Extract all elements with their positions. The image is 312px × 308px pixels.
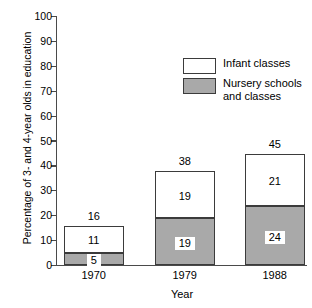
bar-group: 2421451988	[245, 0, 306, 300]
bar-segment-infant[interactable]: 11	[64, 226, 125, 253]
y-axis-tick-label: 20	[12, 210, 52, 220]
bar-group: 511161970	[64, 0, 125, 300]
legend-swatch-infant-classes	[183, 58, 216, 74]
x-axis-tick-label: 1970	[52, 269, 137, 281]
y-axis-tick-label: 100	[12, 11, 52, 21]
bar-segment-value-label: 21	[246, 175, 305, 187]
bar-segment-infant[interactable]: 19	[155, 171, 216, 218]
bar-segment-infant[interactable]: 21	[245, 154, 306, 206]
y-axis-line	[56, 16, 57, 266]
legend-label-infant-classes: Infant classes	[223, 57, 290, 70]
y-axis-tick-label: 90	[12, 36, 52, 46]
y-axis-tick-label: 70	[12, 86, 52, 96]
bar-segment-value-label: 11	[65, 234, 124, 246]
x-axis-title: Year	[57, 288, 307, 300]
x-axis-tick-label: 1979	[143, 269, 228, 281]
bar-total-label: 45	[235, 138, 312, 150]
bar-segment-value-label: 19	[156, 237, 215, 250]
y-axis-tick-label: 50	[12, 136, 52, 146]
bar-total-label: 16	[54, 210, 135, 222]
legend-swatch-nursery-schools	[183, 78, 216, 94]
y-axis-tick-label: 0	[12, 260, 52, 270]
bar-segment-value-label: 19	[156, 190, 215, 202]
bar-group: 1919381979	[155, 0, 216, 300]
bar-segment-nursery[interactable]: 24	[245, 206, 306, 266]
bar-segment-value-label: 24	[246, 231, 305, 244]
bar-segment-nursery[interactable]: 5	[64, 253, 125, 265]
y-axis-tick-label: 10	[12, 235, 52, 245]
legend-item-infant-classes: Infant classes	[183, 57, 302, 74]
bar-total-label: 38	[145, 155, 226, 167]
legend-label-nursery-schools: Nursery schools and classes	[223, 77, 302, 103]
x-axis-tick-label: 1988	[233, 269, 312, 281]
legend-item-nursery-schools: Nursery schools and classes	[183, 77, 302, 103]
legend: Infant classes Nursery schools and class…	[183, 57, 302, 106]
y-axis-tick-label: 80	[12, 61, 52, 71]
y-axis-tick-label: 30	[12, 185, 52, 195]
bar-segment-nursery[interactable]: 19	[155, 218, 216, 265]
y-axis-tick-label: 60	[12, 111, 52, 121]
y-axis-tick-label: 40	[12, 160, 52, 170]
stacked-bar-chart: Percentage of 3- and 4-year olds in educ…	[0, 0, 311, 308]
bar-segment-value-label: 5	[65, 254, 124, 267]
